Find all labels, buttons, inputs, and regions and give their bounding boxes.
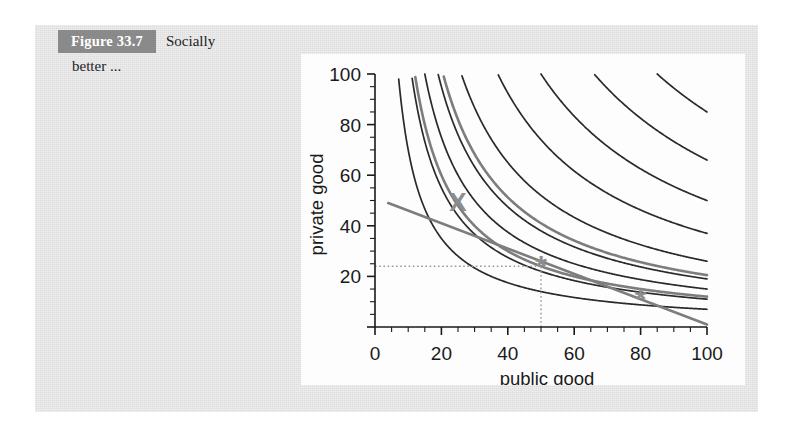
x-tick-label: 100: [691, 343, 723, 364]
x-tick-label: 0: [370, 343, 381, 364]
indifference-curve-5: [462, 76, 707, 261]
chart-svg: 20406080100020406080100 X** public goodp…: [301, 54, 745, 385]
budget-line: [388, 203, 707, 324]
x-marker: X: [449, 187, 467, 217]
indifference-curve-9: [657, 74, 707, 112]
indifference-curve-4-pair-dark: [438, 75, 707, 279]
y-tick-label: 40: [340, 216, 361, 237]
figure-number-badge: Figure 33.7: [58, 30, 156, 53]
indifference-curve-7: [541, 74, 707, 201]
x-tick-label: 80: [630, 343, 651, 364]
star-marker-equilibrium: *: [535, 249, 547, 282]
x-tick-label: 40: [497, 343, 518, 364]
star-marker-right: *: [635, 282, 647, 315]
x-tick-label: 60: [564, 343, 585, 364]
y-tick-label: 60: [340, 165, 361, 186]
figure-caption-line2: better ...: [72, 58, 298, 75]
figure-caption: Figure 33.7Socially better ...: [58, 30, 298, 75]
indifference-curve-4-pair-gray: [444, 77, 707, 276]
chart-curves-group: [388, 74, 707, 324]
indifference-curve-8: [595, 75, 707, 160]
y-tick-label: 100: [329, 64, 361, 85]
chart-panel: 20406080100020406080100 X** public goodp…: [301, 54, 745, 385]
y-tick-label: 80: [340, 115, 361, 136]
figure-caption-line1: Socially: [166, 33, 215, 50]
x-axis-title: public good: [500, 368, 595, 385]
chart-guide-lines-group: [375, 266, 541, 327]
x-tick-label: 20: [431, 343, 452, 364]
y-axis-title: private good: [306, 154, 327, 256]
y-tick-label: 20: [340, 266, 361, 287]
indifference-curve-6: [498, 75, 707, 233]
